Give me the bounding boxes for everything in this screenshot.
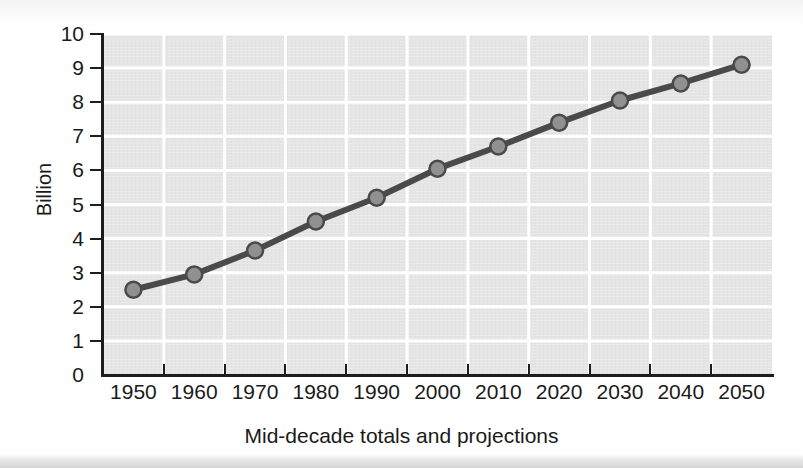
x-axis-tick [284, 364, 286, 375]
y-axis-tick-label: 9 [36, 57, 84, 78]
data-point-marker [430, 161, 446, 177]
population-line-chart-figure: 012345678910 195019601970198019902000201… [0, 0, 803, 468]
y-axis-tick-label-text: 9 [36, 57, 84, 78]
y-axis-tick-label-text: 10 [36, 23, 84, 44]
y-axis-tick-label: 3 [36, 262, 84, 283]
x-axis-tick [345, 364, 347, 375]
y-axis-tick [90, 340, 101, 342]
data-point-marker [734, 57, 750, 73]
x-axis-tick [163, 364, 165, 375]
x-axis-tick [406, 364, 408, 375]
y-axis-tick-label-text: 1 [36, 330, 84, 351]
y-axis-title: Billion [33, 135, 56, 245]
x-axis-line [101, 374, 774, 377]
y-axis-tick-label: 1 [36, 330, 84, 351]
y-axis-tick-label: 10 [36, 23, 84, 44]
y-axis-tick-label-text: 0 [36, 364, 84, 385]
plot-canvas [103, 34, 772, 375]
y-axis-tick [90, 33, 101, 35]
y-axis-tick-label-text: 3 [36, 262, 84, 283]
x-axis-tick [224, 364, 226, 375]
x-axis-tick [528, 364, 530, 375]
y-axis-tick-label: 2 [36, 296, 84, 317]
y-axis-tick-label: 0 [36, 364, 84, 385]
data-point-marker [125, 282, 141, 298]
x-axis-tick [710, 364, 712, 375]
x-axis-tick-label: 2050 [706, 381, 778, 402]
y-axis-tick-label: 8 [36, 91, 84, 112]
y-axis-tick [90, 272, 101, 274]
y-axis-tick [90, 169, 101, 171]
y-axis-line [101, 33, 104, 377]
data-point-marker [551, 115, 567, 131]
y-axis-tick [90, 204, 101, 206]
data-point-marker [369, 190, 385, 206]
x-axis-tick [467, 364, 469, 375]
y-axis-tick [90, 67, 101, 69]
data-point-marker [490, 139, 506, 155]
y-axis-tick [90, 135, 101, 137]
y-axis-tick [90, 238, 101, 240]
data-point-marker [186, 266, 202, 282]
data-point-marker [247, 243, 263, 259]
x-axis-title: Mid-decade totals and projections [0, 424, 803, 448]
plot-area [103, 34, 772, 375]
y-axis-tick [90, 101, 101, 103]
y-axis-tick-label-text: 8 [36, 91, 84, 112]
x-axis-tick [589, 364, 591, 375]
data-point-marker [308, 214, 324, 230]
data-point-marker [673, 75, 689, 91]
y-axis-tick [90, 306, 101, 308]
x-axis-tick [649, 364, 651, 375]
data-point-marker [612, 93, 628, 109]
y-axis-tick-label-text: 2 [36, 296, 84, 317]
